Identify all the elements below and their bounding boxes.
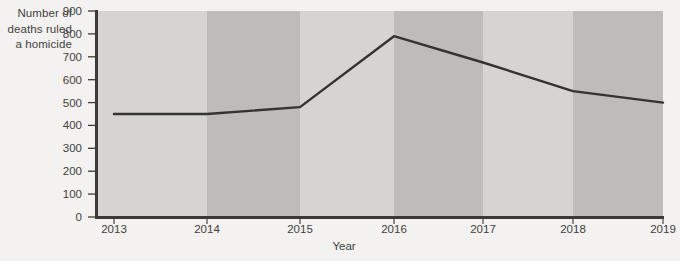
year-band-2015-2016 bbox=[300, 11, 394, 217]
x-axis-title: Year bbox=[0, 240, 680, 252]
y-tick-label: 400 bbox=[38, 119, 82, 131]
x-tick-label: 2016 bbox=[364, 223, 424, 235]
x-tick-label: 2015 bbox=[270, 223, 330, 235]
x-axis-title-label: Year bbox=[332, 240, 355, 252]
x-tick-label: 2019 bbox=[633, 223, 680, 235]
year-band-2012-2013 bbox=[96, 11, 114, 217]
x-tick-label: 2014 bbox=[177, 223, 237, 235]
x-tick-label: 2018 bbox=[543, 223, 603, 235]
x-tick-label: 2013 bbox=[84, 223, 144, 235]
y-tick-label: 100 bbox=[38, 188, 82, 200]
y-tick-label: 700 bbox=[38, 51, 82, 63]
year-band-2016-2017 bbox=[394, 11, 483, 217]
y-tick-label: 200 bbox=[38, 165, 82, 177]
y-tick-label: 300 bbox=[38, 142, 82, 154]
y-tick-label: 0 bbox=[38, 211, 82, 223]
homicide-deaths-line-chart: Number of deaths ruled a homicide bbox=[0, 0, 680, 261]
y-tick-label: 900 bbox=[38, 5, 82, 17]
plot-area bbox=[0, 0, 680, 261]
year-band-2017-2018 bbox=[483, 11, 573, 217]
y-tick-label: 500 bbox=[38, 97, 82, 109]
x-tick-label: 2017 bbox=[453, 223, 513, 235]
year-band-2018-2019 bbox=[573, 11, 663, 217]
y-tick-label: 600 bbox=[38, 74, 82, 86]
y-tick-label: 800 bbox=[38, 28, 82, 40]
